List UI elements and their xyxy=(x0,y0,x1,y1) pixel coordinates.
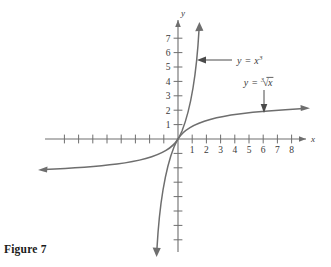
y-tick-label-7: 7 xyxy=(166,34,171,44)
x-tick-label-1: 1 xyxy=(190,145,195,155)
y-tick-label-4: 4 xyxy=(166,77,171,87)
x-tick-label-5: 5 xyxy=(247,145,252,155)
label-cuberoot-eq: = xyxy=(251,77,258,88)
y-tick-label-2: 2 xyxy=(166,106,171,116)
annotation-cuberoot: y=3√x xyxy=(243,77,274,113)
x-tick-label-6: 6 xyxy=(261,145,266,155)
y-tick-label-5: 5 xyxy=(166,62,171,72)
y-axis-name-label: y xyxy=(180,8,185,18)
x-tick-label-3: 3 xyxy=(218,145,223,155)
label-cubic-eq: = xyxy=(244,55,251,66)
label-cubic: y=x3 xyxy=(236,54,263,66)
x-tick-label-2: 2 xyxy=(204,145,209,155)
x-axis-name-label: x xyxy=(310,134,315,144)
x-tick-label-7: 7 xyxy=(275,145,280,155)
x-axis-arrowhead xyxy=(299,136,306,142)
y-tick-label-1: 1 xyxy=(166,120,171,130)
x-tick-label-8: 8 xyxy=(289,145,294,155)
x-tick-label-4: 4 xyxy=(232,145,237,155)
figure-7-graph: 1 2 3 4 5 6 7 8 1 2 3 4 5 6 7 x y xyxy=(0,0,331,267)
curve-cubic-top-arrowhead xyxy=(195,22,203,31)
annotation-cubic: y=x3 xyxy=(197,54,263,66)
y-tick-label-3: 3 xyxy=(166,91,171,101)
label-cuberoot-lhs: y xyxy=(243,77,249,88)
y-tick-label-6: 6 xyxy=(166,48,171,58)
y-axis-tick-labels: 1 2 3 4 5 6 7 xyxy=(166,34,171,130)
annotation-cubic-arrowhead xyxy=(197,57,206,64)
label-cuberoot-radicand: x xyxy=(267,77,273,88)
figure-page: 1 2 3 4 5 6 7 8 1 2 3 4 5 6 7 x y xyxy=(0,0,331,267)
y-axis-arrowhead xyxy=(175,20,181,27)
curve-cuberoot-left-arrowhead xyxy=(38,167,48,173)
curve-cubic-bottom-arrowhead xyxy=(153,248,161,257)
label-cubic-exponent: 3 xyxy=(258,54,263,61)
label-cubic-lhs: y xyxy=(236,55,242,66)
figure-caption: Figure 7 xyxy=(4,243,47,255)
x-axis-tick-labels: 1 2 3 4 5 6 7 8 xyxy=(190,145,294,155)
curve-cuberoot-right-arrowhead xyxy=(301,105,311,111)
label-cuberoot: y=3√x xyxy=(243,77,273,88)
axes-group xyxy=(45,20,306,252)
